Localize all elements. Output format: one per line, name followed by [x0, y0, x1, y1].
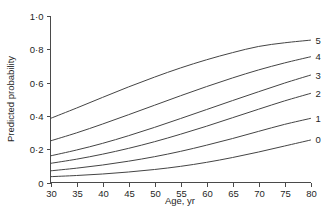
x-axis-ticks	[52, 183, 312, 187]
y-tick-label: 1·0	[30, 11, 44, 22]
series-label-2: 2	[316, 88, 321, 99]
series-label-5: 5	[316, 35, 321, 46]
x-tick-label: 40	[98, 188, 109, 199]
y-tick-label: 0	[38, 178, 43, 189]
y-axis-tick-labels: 1·00·80·60·40·20	[30, 11, 44, 189]
series-label-4: 4	[316, 51, 321, 62]
x-axis-title: Age, yr	[165, 195, 195, 206]
data-curve-0	[51, 140, 311, 177]
predicted-probability-line-chart: 1·00·80·60·40·20 3035404550556065707580 …	[0, 0, 335, 224]
y-axis-title: Predicted probability	[5, 56, 16, 142]
figure-root: 1·00·80·60·40·20 3035404550556065707580 …	[0, 0, 335, 224]
x-tick-label: 30	[46, 188, 57, 199]
x-tick-label: 65	[228, 188, 239, 199]
data-curve-5	[51, 40, 311, 118]
data-curve-3	[51, 75, 311, 156]
y-tick-label: 0·4	[30, 111, 44, 122]
y-tick-label: 0·6	[30, 78, 44, 89]
series-label-0: 0	[316, 134, 321, 145]
x-tick-label: 35	[72, 188, 83, 199]
series-label-1: 1	[316, 113, 321, 124]
x-tick-label: 75	[280, 188, 291, 199]
axes-group	[51, 16, 311, 183]
y-tick-label: 0·2	[30, 144, 44, 155]
x-tick-label: 60	[202, 188, 213, 199]
x-tick-label: 50	[150, 188, 161, 199]
series-end-labels-group: 543210	[316, 35, 321, 146]
x-tick-label: 70	[254, 188, 265, 199]
data-curve-1	[51, 118, 311, 170]
x-tick-label: 80	[306, 188, 317, 199]
y-tick-label: 0·8	[30, 44, 44, 55]
series-label-3: 3	[316, 70, 321, 81]
y-axis-ticks	[47, 17, 51, 184]
data-curves-group	[51, 40, 311, 177]
x-tick-label: 45	[124, 188, 135, 199]
